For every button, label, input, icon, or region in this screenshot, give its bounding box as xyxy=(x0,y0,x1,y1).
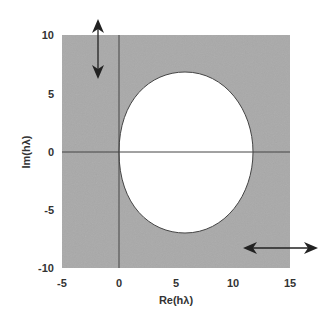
y-tick-label: 5 xyxy=(48,88,54,100)
x-axis-label: Re(hλ) xyxy=(159,294,194,306)
y-tick-label: 0 xyxy=(48,146,54,158)
x-tick-label: 0 xyxy=(116,277,122,289)
x-tick-label: 10 xyxy=(227,277,239,289)
x-tick-label: 15 xyxy=(284,277,296,289)
y-tick-label: 10 xyxy=(42,29,54,41)
y-tick-label: -5 xyxy=(44,204,54,216)
x-tick-label: -5 xyxy=(57,277,67,289)
x-tick-label: 5 xyxy=(173,277,179,289)
stability-region-chart: 10 5 0 -5 -10 -5 0 5 10 15 Re(hλ) Im(hλ) xyxy=(0,0,336,322)
y-tick-label: -10 xyxy=(38,262,54,274)
y-axis-label: Im(hλ) xyxy=(20,135,32,168)
